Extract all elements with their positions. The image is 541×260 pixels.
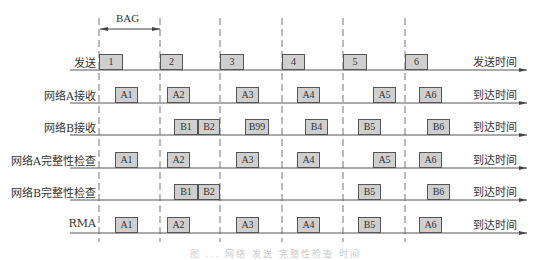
frame-box: A3: [236, 152, 259, 168]
frame-box: B5: [358, 119, 381, 135]
row-label: 网络A接收: [0, 87, 96, 103]
row-label: 网络B接收: [0, 119, 96, 135]
bag-label: BAG: [116, 12, 139, 24]
frame-box: A2: [167, 217, 190, 233]
axis-label: 到达时间: [473, 86, 517, 102]
frame-box: A2: [167, 152, 190, 168]
frame-box: B1: [174, 184, 198, 200]
frame-box: B5: [358, 217, 381, 233]
row-label: 发送: [0, 54, 96, 70]
frame-box: B6: [427, 184, 450, 200]
frame-box: A4: [297, 87, 320, 103]
frame-box: 3: [220, 54, 244, 70]
axis-label: 到达时间: [473, 216, 517, 232]
axis-label: 到达时间: [473, 118, 517, 134]
frame-box: A3: [236, 87, 259, 103]
frame-box: 4: [282, 54, 305, 70]
frame-box: B5: [358, 184, 381, 200]
frame-box: B2: [198, 184, 220, 200]
frame-box: B4: [305, 119, 328, 135]
frame-box: A6: [419, 217, 442, 233]
frame-box: 2: [160, 54, 183, 70]
frame-box: A2: [167, 87, 190, 103]
row-label: 网络A完整性检查: [0, 152, 96, 168]
frame-box: B1: [174, 119, 198, 135]
frame-box: 1: [99, 54, 123, 70]
frame-box: 5: [343, 54, 367, 70]
frame-box: A6: [419, 152, 442, 168]
axis-label: 发送时间: [473, 53, 517, 69]
frame-box: B99: [245, 119, 269, 135]
frame-box: A5: [373, 152, 396, 168]
frame-box: 6: [405, 54, 428, 70]
frame-box: A4: [297, 217, 320, 233]
frame-box: A5: [373, 87, 396, 103]
frame-box: A1: [115, 217, 138, 233]
frame-box: A1: [115, 87, 138, 103]
axis-label: 到达时间: [473, 151, 517, 167]
figure-caption: 图 ... 网络 发送 完整性检查 时间: [190, 247, 361, 260]
frame-box: A4: [297, 152, 320, 168]
frame-box: B6: [427, 119, 450, 135]
axis-label: 到达时间: [473, 183, 517, 199]
frame-box: A1: [115, 152, 138, 168]
frame-box: B2: [198, 119, 220, 135]
row-label: 网络B完整性检查: [0, 184, 96, 200]
frame-box: A6: [419, 87, 442, 103]
row-label: RMA: [0, 217, 96, 230]
frame-box: A3: [236, 217, 259, 233]
